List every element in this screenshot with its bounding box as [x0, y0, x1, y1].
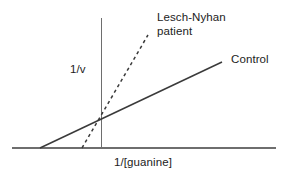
lineweaver-burk-figure: Lesch-Nyhanpatient Control 1/v 1/[guanin…: [0, 0, 286, 182]
x-axis-label: 1/[guanine]: [114, 156, 172, 170]
series-label-control: Control: [231, 53, 269, 67]
series-line-control: [40, 62, 222, 148]
series-line-lesch-nyhan: [82, 35, 148, 148]
series-label-lesch-nyhan-line2: patient: [157, 25, 192, 37]
y-axis-label: 1/v: [70, 63, 86, 77]
series-label-lesch-nyhan: Lesch-Nyhanpatient: [157, 11, 226, 38]
plot-canvas: [0, 0, 286, 182]
series-label-lesch-nyhan-line1: Lesch-Nyhan: [157, 11, 226, 23]
